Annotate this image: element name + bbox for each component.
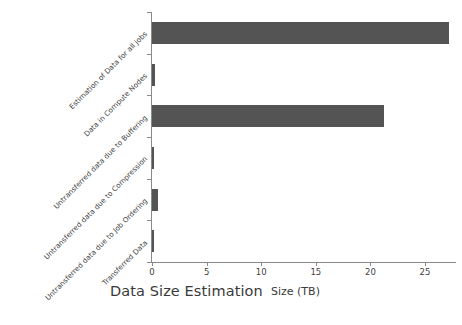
- y-tick-mark: [147, 12, 151, 13]
- bar: [152, 22, 449, 44]
- x-tick-label: 0: [140, 267, 164, 277]
- bar: [152, 147, 154, 169]
- x-tick-mark: [425, 262, 426, 266]
- bar-chart: Estimation of Data for all jobsData in C…: [0, 0, 462, 325]
- x-tick-label: 10: [249, 267, 273, 277]
- x-tick-label: 20: [358, 267, 382, 277]
- chart-title: Data Size Estimation: [110, 283, 263, 299]
- y-tick-mark: [147, 220, 151, 221]
- plot-area: [152, 12, 462, 262]
- x-tick-mark: [370, 262, 371, 266]
- x-tick-label: 15: [304, 267, 328, 277]
- y-tick-mark: [147, 179, 151, 180]
- bar: [152, 189, 158, 211]
- x-tick-mark: [261, 262, 262, 266]
- x-tick-mark: [316, 262, 317, 266]
- y-tick-mark: [147, 137, 151, 138]
- x-tick-label: 25: [413, 267, 437, 277]
- x-tick-label: 5: [195, 267, 219, 277]
- y-tick-mark: [147, 54, 151, 55]
- x-tick-mark: [207, 262, 208, 266]
- bar: [152, 64, 155, 86]
- x-axis-title: Size (TB): [271, 285, 320, 298]
- bar: [152, 230, 154, 252]
- y-tick-mark: [147, 95, 151, 96]
- x-tick-mark: [152, 262, 153, 266]
- y-tick-mark: [147, 262, 151, 263]
- bar: [152, 105, 384, 127]
- x-axis-line: [151, 262, 456, 263]
